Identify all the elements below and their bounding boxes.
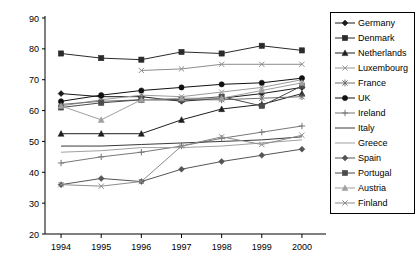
legend-marker bbox=[342, 95, 347, 100]
data-point bbox=[139, 88, 144, 93]
x-tick-label: 1996 bbox=[131, 242, 151, 252]
legend-marker-germany-icon bbox=[334, 17, 356, 29]
legend-symbol-svg bbox=[334, 137, 356, 149]
y-tick-label: 20 bbox=[29, 230, 39, 240]
legend-symbol-svg bbox=[334, 122, 356, 134]
chart-root: 2030405060708090199419951996199719981999… bbox=[0, 0, 416, 279]
legend-item-france[interactable]: France bbox=[330, 75, 416, 90]
data-point bbox=[219, 158, 225, 164]
data-point bbox=[259, 80, 264, 85]
legend-item-netherlands[interactable]: Netherlands bbox=[330, 45, 416, 60]
data-point bbox=[219, 82, 224, 87]
legend-marker-luxembourg-icon bbox=[334, 62, 356, 74]
x-tick-label: 2000 bbox=[292, 242, 312, 252]
y-tick-label: 60 bbox=[29, 106, 39, 116]
legend-marker-portugal-icon bbox=[334, 167, 356, 179]
y-tick-label: 40 bbox=[29, 168, 39, 178]
data-point bbox=[138, 149, 144, 155]
plot-area: 2030405060708090199419951996199719981999… bbox=[0, 0, 330, 279]
x-tick-label: 1994 bbox=[51, 242, 71, 252]
legend-marker-finland-icon bbox=[334, 197, 356, 209]
legend-label: Denmark bbox=[356, 32, 395, 44]
y-tick-label: 70 bbox=[29, 75, 39, 85]
legend-marker-france-icon bbox=[334, 77, 356, 89]
x-tick-label: 1995 bbox=[91, 242, 111, 252]
legend-item-austria[interactable]: Austria bbox=[330, 180, 416, 195]
legend-label: Luxembourg bbox=[356, 62, 408, 74]
legend-marker bbox=[342, 20, 348, 26]
legend-marker-italy-icon bbox=[334, 122, 356, 134]
x-tick-label: 1998 bbox=[212, 242, 232, 252]
chart-legend: GermanyDenmarkNetherlandsLuxembourgFranc… bbox=[330, 12, 416, 215]
legend-marker-denmark-icon bbox=[334, 32, 356, 44]
legend-symbol-svg bbox=[334, 167, 356, 179]
legend-marker bbox=[342, 155, 348, 161]
legend-label: Netherlands bbox=[356, 47, 407, 59]
data-point bbox=[99, 100, 104, 105]
data-point bbox=[259, 152, 265, 158]
legend-item-denmark[interactable]: Denmark bbox=[330, 30, 416, 45]
legend-item-ireland[interactable]: Ireland bbox=[330, 105, 416, 120]
legend-item-spain[interactable]: Spain bbox=[330, 150, 416, 165]
legend-marker bbox=[342, 170, 347, 175]
x-tick-label: 1999 bbox=[252, 242, 272, 252]
data-point bbox=[259, 103, 264, 108]
legend-symbol-svg bbox=[334, 152, 356, 164]
data-point bbox=[299, 48, 304, 53]
legend-marker-netherlands-icon bbox=[334, 47, 356, 59]
series-denmark bbox=[58, 43, 304, 62]
series-spain bbox=[58, 146, 305, 187]
legend-symbol-svg bbox=[334, 32, 356, 44]
series-finland bbox=[139, 62, 305, 73]
data-point bbox=[98, 154, 104, 160]
legend-list: GermanyDenmarkNetherlandsLuxembourgFranc… bbox=[330, 12, 416, 210]
legend-label: Italy bbox=[356, 122, 375, 134]
legend-item-italy[interactable]: Italy bbox=[330, 120, 416, 135]
x-tick-label: 1997 bbox=[171, 242, 191, 252]
legend-symbol-svg bbox=[334, 197, 356, 209]
legend-label: Germany bbox=[356, 17, 395, 29]
data-point bbox=[179, 85, 184, 90]
y-tick-label: 30 bbox=[29, 199, 39, 209]
data-point bbox=[58, 160, 64, 166]
legend-label: Greece bbox=[356, 137, 388, 149]
legend-label: UK bbox=[356, 92, 371, 104]
data-point bbox=[99, 56, 104, 61]
legend-item-greece[interactable]: Greece bbox=[330, 135, 416, 150]
legend-label: Austria bbox=[356, 182, 386, 194]
legend-marker bbox=[342, 109, 348, 115]
y-tick-label: 50 bbox=[29, 137, 39, 147]
legend-symbol-svg bbox=[334, 107, 356, 119]
line-chart-svg: 2030405060708090199419951996199719981999… bbox=[0, 0, 330, 279]
legend-symbol-svg bbox=[334, 17, 356, 29]
legend-marker-ireland-icon bbox=[334, 107, 356, 119]
y-tick-label: 80 bbox=[29, 44, 39, 54]
data-point bbox=[259, 129, 265, 135]
data-point bbox=[99, 93, 104, 98]
legend-marker bbox=[342, 35, 347, 40]
legend-item-luxembourg[interactable]: Luxembourg bbox=[330, 60, 416, 75]
legend-marker-greece-icon bbox=[334, 137, 356, 149]
legend-label: Spain bbox=[356, 152, 381, 164]
series-line bbox=[141, 64, 302, 70]
legend-item-uk[interactable]: UK bbox=[330, 90, 416, 105]
data-point bbox=[98, 175, 104, 181]
legend-symbol-svg bbox=[334, 182, 356, 194]
legend-label: Finland bbox=[356, 197, 388, 209]
data-point bbox=[299, 146, 305, 152]
data-point bbox=[259, 43, 264, 48]
data-point bbox=[179, 49, 184, 54]
legend-symbol-svg bbox=[334, 62, 356, 74]
legend-item-germany[interactable]: Germany bbox=[330, 15, 416, 30]
data-point bbox=[219, 51, 224, 56]
y-tick-label: 90 bbox=[29, 14, 39, 24]
legend-label: France bbox=[356, 77, 386, 89]
legend-item-finland[interactable]: Finland bbox=[330, 195, 416, 210]
data-point bbox=[58, 51, 63, 56]
data-point bbox=[179, 166, 185, 172]
series-ireland bbox=[58, 123, 305, 166]
legend-item-portugal[interactable]: Portugal bbox=[330, 165, 416, 180]
legend-symbol-svg bbox=[334, 77, 356, 89]
data-point bbox=[139, 57, 144, 62]
data-point bbox=[299, 123, 305, 129]
